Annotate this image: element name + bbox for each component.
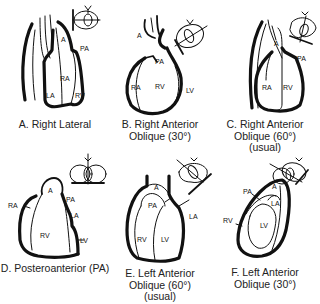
panel-right-anterior-oblique-60: A PA RA RV C. Right Anterior Oblique (60… [210, 0, 320, 160]
caption-lao-60: E. Left Anterior Oblique (60°) (usual) [105, 268, 215, 303]
heart-lao-30-drawing [210, 150, 320, 270]
orientation-icon [70, 154, 106, 184]
label-aorta: A [61, 36, 66, 43]
label-right-ventricle: RV [283, 84, 293, 91]
label-right-atrium: RA [262, 84, 272, 91]
label-right-ventricle: RV [137, 236, 147, 243]
caption-rao-30: B. Right Anterior Oblique (30°) [105, 119, 215, 142]
label-pulmonary-artery: PA [80, 45, 89, 52]
caption-posteroanterior: D. Posteroanterior (PA) [0, 263, 110, 275]
label-right-ventricle: RV [155, 83, 165, 90]
panel-right-lateral: A PA RA LA RV A. Right Lateral [0, 0, 110, 150]
label-left-atrium: LA [46, 92, 55, 99]
label-aorta: A [154, 184, 159, 191]
label-left-atrium: LA [70, 212, 79, 219]
label-pulmonary-artery: PA [297, 55, 306, 62]
orientation-icon [290, 12, 316, 44]
label-right-atrium: RA [60, 75, 70, 82]
label-left-atrium: LA [271, 200, 280, 207]
panel-right-anterior-oblique-30: A PA RA RV LV B. Right Anterior Oblique … [105, 0, 215, 150]
label-left-ventricle: LV [260, 222, 268, 229]
caption-lao-30: F. Left Anterior Oblique (30°) [210, 267, 320, 290]
label-aorta: A [272, 183, 277, 190]
label-right-ventricle: RV [40, 232, 50, 239]
label-left-ventricle: LV [186, 87, 194, 94]
label-right-ventricle: RV [223, 217, 233, 224]
panel-posteroanterior: A RA PA LA RV LV D. Posteroanterior (PA) [0, 150, 110, 304]
label-left-ventricle: LV [80, 237, 88, 244]
orientation-icon [177, 158, 211, 194]
label-pulmonary-artery: PA [148, 202, 157, 209]
heart-right-lateral-drawing [0, 0, 110, 110]
label-aorta: A [137, 32, 142, 39]
label-left-ventricle: LV [161, 236, 169, 243]
label-aorta: A [48, 187, 53, 194]
label-pulmonary-artery: PA [243, 188, 252, 195]
label-aorta: A [274, 40, 279, 47]
panel-left-anterior-oblique-60: A PA LA RV LV E. Left Anterior Oblique (… [105, 150, 215, 304]
label-right-atrium: RA [131, 84, 141, 91]
label-left-atrium: LA [189, 213, 198, 220]
heart-lao-60-drawing [105, 150, 215, 270]
orientation-icon [173, 20, 208, 54]
label-pulmonary-artery: PA [66, 196, 75, 203]
orientation-icon [73, 6, 100, 30]
label-right-atrium: RA [8, 202, 18, 209]
label-pulmonary-artery: PA [155, 58, 164, 65]
heart-pa-drawing [0, 150, 110, 270]
caption-rao-60: C. Right Anterior Oblique (60°) (usual) [210, 119, 320, 154]
label-right-ventricle: RV [75, 92, 85, 99]
caption-right-lateral: A. Right Lateral [0, 119, 110, 131]
panel-left-anterior-oblique-30: A PA LA RV LV F. Left Anterior Oblique (… [210, 150, 320, 304]
